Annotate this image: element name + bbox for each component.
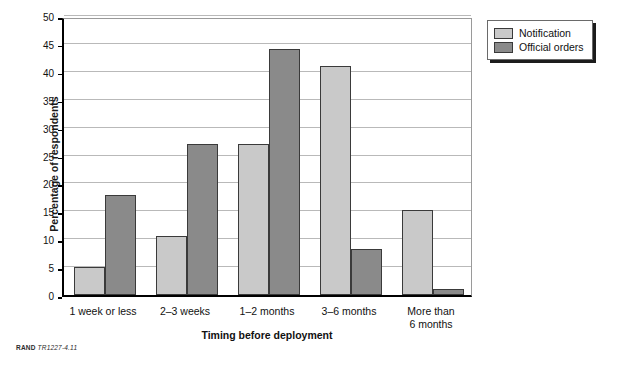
y-tick-label: 0 <box>30 291 54 302</box>
legend-label: Notification <box>519 27 571 39</box>
legend-swatch-icon <box>494 42 513 53</box>
source-footnote: RAND TR1227-4.11 <box>16 344 77 351</box>
y-tick-label: 10 <box>30 235 54 246</box>
y-tick-label: 35 <box>30 96 54 107</box>
x-tick-label: More than 6 months <box>390 305 472 331</box>
x-tick-label: 1 week or less <box>62 305 144 318</box>
bar-official-orders <box>433 289 464 295</box>
legend-label: Official orders <box>519 41 584 53</box>
footnote-mark: RAND <box>16 344 36 351</box>
bar-notification <box>320 66 351 295</box>
y-tick-mark <box>58 297 62 299</box>
legend-swatch-icon <box>494 28 513 39</box>
y-tick-label: 20 <box>30 179 54 190</box>
footnote-id: TR1227-4.11 <box>38 344 78 351</box>
y-tick-label: 50 <box>30 12 54 23</box>
bar-official-orders <box>269 49 300 295</box>
bar-official-orders <box>351 249 382 295</box>
x-tick-label: 1–2 months <box>226 305 308 318</box>
x-axis-title: Timing before deployment <box>62 329 472 341</box>
bar-official-orders <box>187 144 218 295</box>
y-tick-label: 15 <box>30 207 54 218</box>
y-axis-title: Percentage of respondents <box>48 24 60 304</box>
bar-series-container <box>64 19 471 295</box>
y-tick-label: 40 <box>30 68 54 79</box>
legend-item: Notification <box>494 26 584 40</box>
x-tick-label: 3–6 months <box>308 305 390 318</box>
bar-notification <box>402 210 433 295</box>
y-tick-label: 25 <box>30 152 54 163</box>
chart-figure: Percentage of respondents 05101520253035… <box>0 0 618 365</box>
bar-official-orders <box>105 195 136 295</box>
y-tick-label: 45 <box>30 40 54 51</box>
y-tick-label: 30 <box>30 124 54 135</box>
bar-notification <box>74 267 105 295</box>
y-tick-label: 5 <box>30 263 54 274</box>
bar-notification <box>238 144 269 295</box>
x-tick-label: 2–3 weeks <box>144 305 226 318</box>
gridline <box>64 15 471 16</box>
legend: NotificationOfficial orders <box>487 20 593 60</box>
legend-item: Official orders <box>494 40 584 54</box>
bar-notification <box>156 236 187 295</box>
plot-area <box>62 18 472 297</box>
